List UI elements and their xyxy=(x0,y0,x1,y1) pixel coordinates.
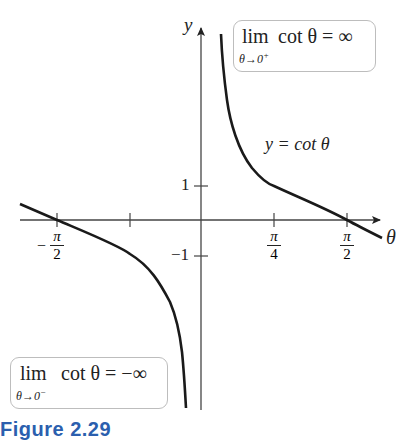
lim-sub-text: θ→0 xyxy=(239,52,263,66)
frac-den: 2 xyxy=(340,247,354,262)
curve-label: y = cot θ xyxy=(265,134,329,155)
lim-subscript: θ→0− xyxy=(16,387,46,404)
lim-sup: − xyxy=(40,387,46,397)
x-tick-label-pi-2: π 2 xyxy=(340,229,354,262)
y-tick-label-neg1: −1 xyxy=(171,245,189,265)
frac-num: π xyxy=(267,229,281,244)
y-tick-label-1: 1 xyxy=(181,175,190,195)
lim-expression: cot θ = ∞ xyxy=(278,25,353,48)
lim-sub-text: θ→0 xyxy=(16,389,40,403)
lim-text: lim xyxy=(242,25,269,48)
figure-caption: Figure 2.29 xyxy=(0,418,111,441)
x-tick-neg-sign: − xyxy=(37,237,46,255)
x-tick-label-pi-4: π 4 xyxy=(267,229,281,262)
frac-num: π xyxy=(50,229,64,244)
lim-text: lim xyxy=(20,362,47,385)
x-axis-label: θ xyxy=(386,226,396,249)
limit-left-box: lim θ→0− cot θ = −∞ xyxy=(10,357,168,409)
x-tick-label-neg-pi-2: π 2 xyxy=(50,229,64,262)
limit-right-box: lim θ→0+ cot θ = ∞ xyxy=(233,20,376,72)
frac-num: π xyxy=(340,229,354,244)
y-axis-label: y xyxy=(184,14,192,36)
lim-expression: cot θ = −∞ xyxy=(61,362,147,385)
frac-den: 4 xyxy=(267,247,281,262)
lim-subscript: θ→0+ xyxy=(239,50,269,67)
lim-sup: + xyxy=(263,50,269,60)
frac-den: 2 xyxy=(50,247,64,262)
